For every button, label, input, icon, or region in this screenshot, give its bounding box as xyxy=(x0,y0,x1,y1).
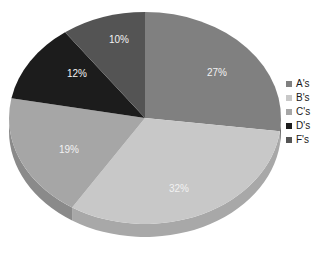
legend-item-bs[interactable]: B's xyxy=(286,91,329,105)
legend-swatch-icon xyxy=(286,109,292,115)
chart-legend: A'sB'sC'sD'sF's xyxy=(286,77,329,147)
pie-slice-value-label: 19% xyxy=(59,144,79,155)
legend-item-label: A's xyxy=(296,79,310,89)
legend-swatch-icon xyxy=(286,137,292,143)
pie-slice-value-label: 32% xyxy=(169,183,189,194)
legend-item-cs[interactable]: C's xyxy=(286,105,329,119)
legend-item-fs[interactable]: F's xyxy=(286,133,329,147)
pie-chart-canvas: 27%32%19%12%10% xyxy=(0,0,329,258)
pie-chart-figure: 27%32%19%12%10% A'sB'sC'sD'sF's xyxy=(0,0,329,258)
pie-slice-value-label: 10% xyxy=(109,34,129,45)
pie-slice-value-label: 27% xyxy=(207,67,227,78)
legend-item-ds[interactable]: D's xyxy=(286,119,329,133)
pie-tops-group xyxy=(9,12,281,224)
legend-item-label: D's xyxy=(296,121,310,131)
legend-swatch-icon xyxy=(286,123,292,129)
legend-swatch-icon xyxy=(286,81,292,87)
legend-item-label: C's xyxy=(296,107,310,117)
legend-item-label: B's xyxy=(296,93,310,103)
legend-item-label: F's xyxy=(296,135,309,145)
legend-swatch-icon xyxy=(286,95,292,101)
pie-slice-value-label: 12% xyxy=(67,68,87,79)
legend-item-as[interactable]: A's xyxy=(286,77,329,91)
